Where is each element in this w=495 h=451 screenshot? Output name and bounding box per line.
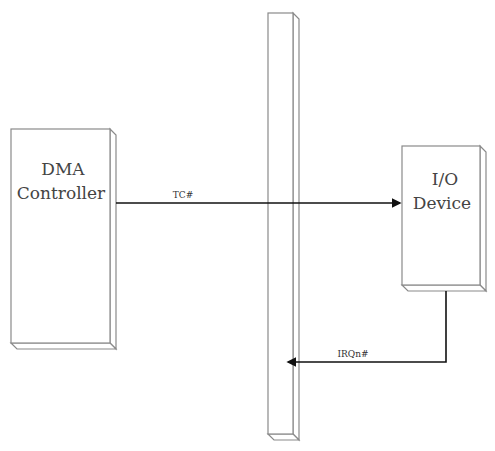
io-label-line2: Device xyxy=(413,193,471,213)
dma-label-line1: DMA xyxy=(41,159,85,179)
io-label-line1: I/O xyxy=(432,169,458,189)
dma-controller-box[interactable]: DMA Controller xyxy=(11,129,116,349)
dma-label-line2: Controller xyxy=(17,183,106,203)
bus-pillar[interactable] xyxy=(268,13,299,440)
irq-signal-edge: IRQn# xyxy=(288,291,446,362)
tc-signal-edge: TC# xyxy=(116,190,400,203)
irq-signal-label: IRQn# xyxy=(337,349,368,359)
diagram-canvas: DMA Controller I/O Device TC# IRQn# xyxy=(0,0,495,451)
io-device-box[interactable]: I/O Device xyxy=(402,146,486,291)
tc-signal-label: TC# xyxy=(173,190,193,200)
